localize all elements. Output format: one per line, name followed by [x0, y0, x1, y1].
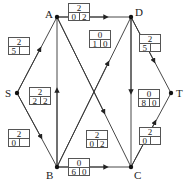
node-label-t: T	[176, 88, 183, 99]
label-box-s-b: 2 0	[8, 129, 30, 147]
label-box-d-c: 0 80	[138, 89, 160, 107]
node-label-b: B	[46, 170, 53, 181]
node-label-c: C	[134, 170, 141, 181]
node-a-dot	[55, 15, 59, 19]
label-box-c-t: 2 0	[139, 127, 161, 145]
node-label-d: D	[135, 7, 143, 18]
label-box-a-c: 2 02	[86, 130, 108, 148]
label-box-s-a: 2 5	[8, 37, 30, 55]
node-d-dot	[129, 15, 133, 19]
node-t-dot	[169, 91, 173, 95]
node-c-dot	[129, 165, 133, 169]
node-b-dot	[55, 165, 59, 169]
node-s-dot	[15, 91, 19, 95]
label-box-d-t: 2 5	[139, 34, 161, 52]
node-label-s: S	[5, 88, 11, 99]
node-label-a: A	[45, 9, 53, 20]
label-box-b-a: 2 22	[29, 87, 51, 105]
label-box-b-d: 0 10	[89, 30, 111, 48]
label-box-b-c: 0 60	[68, 158, 90, 176]
label-box-a-node: 2 02	[68, 3, 90, 21]
